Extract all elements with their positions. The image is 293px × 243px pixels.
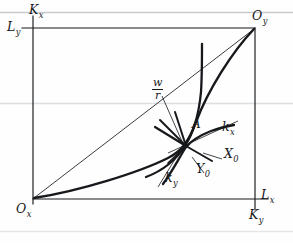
axis-label-Ky-sub: y — [259, 215, 264, 225]
output-label-X0-base: X — [224, 146, 233, 161]
output-label-Y0-base: Y — [196, 161, 204, 176]
spoke-lower-right — [186, 146, 212, 161]
isoquant-label-ky-base: k — [165, 170, 173, 185]
axis-label-Ky-base: K — [249, 207, 258, 222]
isoquant-label-ky: ky — [165, 172, 178, 187]
price-ratio-denominator: r — [152, 90, 163, 101]
isoquant-label-kx-base: k — [222, 119, 230, 134]
output-label-Y0-sub: 0 — [205, 169, 210, 179]
axis-label-Ly: Ly — [7, 21, 20, 36]
output-label-Y0: Y0 — [196, 163, 210, 178]
axis-label-Ly-base: L — [7, 19, 15, 34]
axis-label-Lx-sub: x — [270, 195, 275, 205]
edgeworth-box-figure: Kx Ly Oy Ox Lx Ky w r A kx ky X0 Y0 — [0, 0, 293, 243]
price-ratio-numerator: w — [152, 77, 163, 88]
axis-label-Kx-sub: x — [39, 10, 44, 20]
origin-label-Oy-base: O — [252, 8, 262, 23]
origin-label-Oy-sub: y — [263, 16, 268, 26]
isoquant-label-kx-sub: x — [230, 127, 235, 137]
price-ratio-label: w r — [152, 77, 163, 101]
origin-label-Ox-sub: x — [27, 209, 32, 219]
axis-label-Ly-sub: y — [16, 27, 21, 37]
output-label-X0-sub: 0 — [233, 154, 238, 164]
origin-label-Oy: Oy — [252, 10, 267, 25]
axis-label-Ky: Ky — [249, 209, 263, 224]
axis-label-Kx: Kx — [29, 4, 43, 19]
tangency-node — [184, 144, 188, 148]
output-label-X0: X0 — [224, 148, 239, 163]
tangency-point-label: A — [192, 118, 201, 130]
origin-label-Ox: Ox — [16, 203, 31, 218]
diagonal-line — [34, 29, 254, 198]
axis-label-Lx-base: L — [261, 187, 269, 202]
origin-label-Ox-base: O — [16, 201, 26, 216]
isoquant-label-ky-sub: y — [173, 178, 178, 188]
axis-label-Kx-base: K — [29, 2, 38, 17]
isoquant-label-kx: kx — [222, 121, 235, 136]
axis-label-Lx: Lx — [261, 189, 274, 204]
tangent-spokes — [155, 112, 212, 163]
